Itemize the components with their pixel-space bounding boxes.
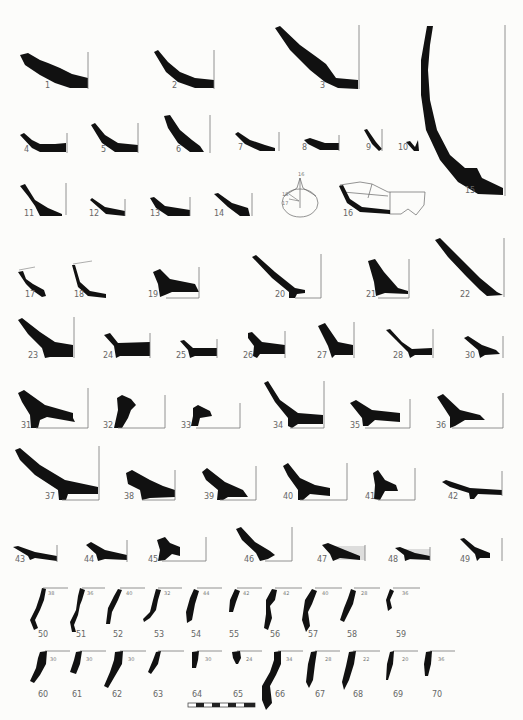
figure-number-54: 54	[191, 630, 201, 639]
rim-diameter-51: 36	[87, 590, 93, 596]
figure-number-26: 26	[243, 351, 253, 360]
figure-number-13: 13	[150, 209, 160, 218]
figure-number-27: 27	[317, 351, 327, 360]
figure-number-44: 44	[84, 555, 94, 564]
figure-number-21: 21	[366, 290, 376, 299]
figure-number-55: 55	[229, 630, 239, 639]
rim-diameter-55: 42	[243, 590, 249, 596]
profile-26	[248, 331, 285, 358]
inset-vessel-diagram: 16 18 17	[282, 171, 318, 217]
rim-diameter-52: 40	[126, 590, 132, 596]
profile-22	[435, 238, 504, 297]
figure-number-64: 64	[192, 690, 202, 699]
figure-number-67: 67	[315, 690, 325, 699]
rim-row-2	[30, 651, 455, 710]
profile-33	[191, 403, 240, 428]
profile-6	[164, 115, 210, 153]
figure-number-12: 12	[89, 209, 99, 218]
profile-47	[322, 543, 365, 561]
profile-2	[154, 50, 214, 89]
figure-number-28: 28	[393, 351, 403, 360]
figure-number-24: 24	[103, 351, 113, 360]
rim-diameter-53: 32	[164, 590, 170, 596]
figure-number-4: 4	[24, 145, 29, 154]
figure-number-23: 23	[28, 351, 38, 360]
figure-number-46: 46	[244, 555, 254, 564]
inset-label-18: 18	[282, 191, 288, 197]
rim-diameter-69: 20	[402, 656, 408, 662]
figure-number-40: 40	[283, 492, 293, 501]
figure-number-60: 60	[38, 690, 48, 699]
figure-number-32: 32	[103, 421, 113, 430]
figure-number-56: 56	[270, 630, 280, 639]
scale-bar	[188, 703, 255, 707]
profile-23	[18, 317, 74, 358]
profile-37	[15, 446, 99, 500]
profile-1	[20, 52, 88, 89]
figure-number-61: 61	[72, 690, 82, 699]
figure-number-34: 34	[273, 421, 283, 430]
figure-number-45: 45	[148, 555, 158, 564]
rim-diameter-58: 28	[361, 590, 367, 596]
figure-number-69: 69	[393, 690, 403, 699]
figure-number-38: 38	[124, 492, 134, 501]
profile-3	[275, 25, 359, 89]
figure-number-65: 65	[233, 690, 243, 699]
figure-number-42: 42	[448, 492, 458, 501]
rim-diameter-70: 36	[438, 656, 444, 662]
figure-number-47: 47	[317, 555, 327, 564]
figure-number-36: 36	[436, 421, 446, 430]
figure-number-52: 52	[113, 630, 123, 639]
figure-number-6: 6	[176, 145, 181, 154]
rim-diameter-50: 38	[48, 590, 54, 596]
rim-diameter-60: 30	[50, 656, 56, 662]
figure-number-18: 18	[74, 290, 84, 299]
profile-45	[157, 537, 206, 561]
figure-number-66: 66	[275, 690, 285, 699]
figure-number-68: 68	[353, 690, 363, 699]
profile-15	[421, 25, 505, 196]
figure-number-9: 9	[366, 143, 371, 152]
profile-19	[153, 267, 199, 298]
rim-diameter-59: 36	[402, 590, 408, 596]
pottery-plate: 16 18 17	[0, 0, 523, 720]
figure-number-62: 62	[112, 690, 122, 699]
figure-number-15: 15	[465, 186, 475, 195]
profile-36	[437, 393, 503, 428]
rim-diameter-68: 22	[363, 656, 369, 662]
inset-label-17: 17	[282, 200, 288, 206]
profile-41	[373, 468, 415, 500]
figure-number-2: 2	[172, 81, 177, 90]
figure-number-39: 39	[204, 492, 214, 501]
figure-number-3: 3	[320, 81, 325, 90]
figure-number-16: 16	[343, 209, 353, 218]
figure-number-58: 58	[347, 630, 357, 639]
figure-number-50: 50	[38, 630, 48, 639]
rim-diameter-61: 30	[86, 656, 92, 662]
figure-number-1: 1	[45, 81, 50, 90]
profile-8	[304, 135, 339, 151]
figure-number-41: 41	[365, 492, 375, 501]
rim-diameter-66: 34	[286, 656, 292, 662]
figure-number-10: 10	[398, 143, 408, 152]
figure-number-7: 7	[238, 143, 243, 152]
figure-number-43: 43	[15, 555, 25, 564]
rim-diameter-57: 40	[322, 590, 328, 596]
figure-number-8: 8	[302, 143, 307, 152]
profile-48	[395, 547, 430, 561]
rim-diameter-67: 28	[325, 656, 331, 662]
profile-20	[252, 254, 321, 298]
figure-numbers: 1234567891011121314151617181920212223242…	[15, 81, 475, 699]
rim-diameter-56: 42	[283, 590, 289, 596]
figure-number-63: 63	[153, 690, 163, 699]
figure-number-20: 20	[275, 290, 285, 299]
figure-number-31: 31	[21, 421, 31, 430]
figure-number-14: 14	[214, 209, 224, 218]
figure-number-22: 22	[460, 290, 470, 299]
rim-diameter-64: 30	[205, 656, 211, 662]
rim-diameter-62: 30	[128, 656, 134, 662]
figure-number-25: 25	[176, 351, 186, 360]
figure-number-5: 5	[101, 145, 106, 154]
figure-number-37: 37	[45, 492, 55, 501]
figure-number-57: 57	[308, 630, 318, 639]
